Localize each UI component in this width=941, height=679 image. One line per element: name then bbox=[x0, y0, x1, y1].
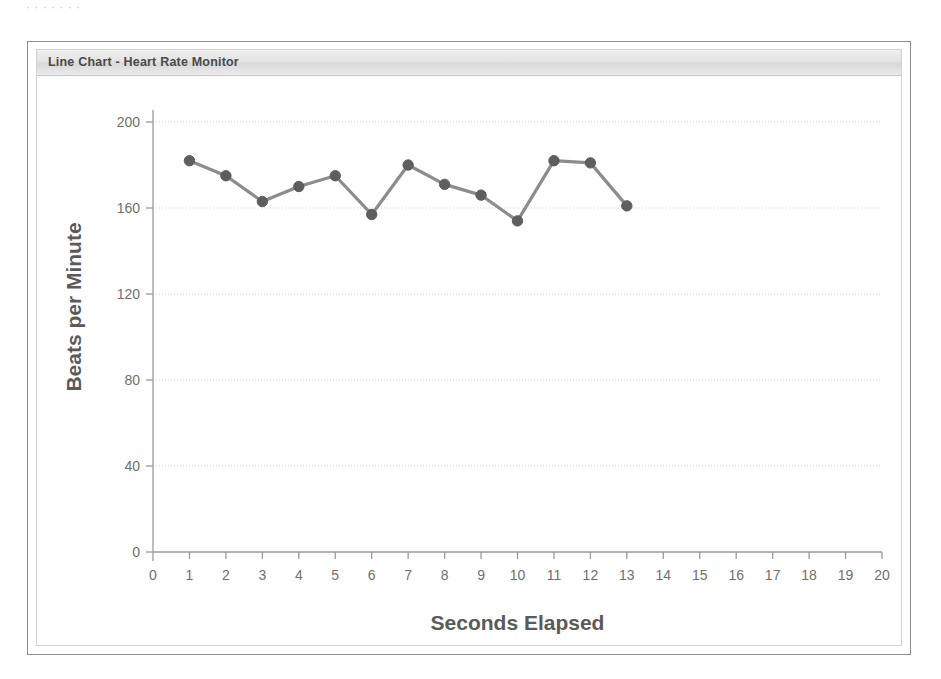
plot-area: 0408012016020001234567891011121314151617… bbox=[37, 76, 901, 645]
data-point[interactable] bbox=[549, 156, 559, 166]
x-tick-label-14: 14 bbox=[656, 567, 672, 583]
chart-panel: Line Chart - Heart Rate Monitor 04080120… bbox=[27, 41, 911, 655]
chart-panel-header: Line Chart - Heart Rate Monitor bbox=[37, 50, 901, 76]
x-tick-label-3: 3 bbox=[258, 567, 266, 583]
x-tick-label-4: 4 bbox=[295, 567, 303, 583]
data-point[interactable] bbox=[585, 158, 595, 168]
x-tick-label-6: 6 bbox=[368, 567, 376, 583]
y-axis-title: Beats per Minute bbox=[62, 222, 85, 391]
x-tick-label-9: 9 bbox=[477, 567, 485, 583]
x-tick-label-12: 12 bbox=[583, 567, 599, 583]
y-tick-label-160: 160 bbox=[117, 200, 141, 216]
chart-panel-title: Line Chart - Heart Rate Monitor bbox=[48, 55, 239, 69]
data-point[interactable] bbox=[512, 216, 522, 226]
x-tick-label-19: 19 bbox=[838, 567, 854, 583]
x-tick-label-0: 0 bbox=[149, 567, 157, 583]
data-point[interactable] bbox=[403, 160, 413, 170]
data-point[interactable] bbox=[184, 156, 194, 166]
cropped-text-sliver: · · · · · · · bbox=[26, 0, 206, 9]
x-tick-label-15: 15 bbox=[692, 567, 708, 583]
data-point[interactable] bbox=[622, 201, 632, 211]
x-tick-label-16: 16 bbox=[728, 567, 744, 583]
x-tick-label-1: 1 bbox=[186, 567, 194, 583]
x-tick-label-8: 8 bbox=[441, 567, 449, 583]
x-tick-label-11: 11 bbox=[547, 567, 562, 583]
x-tick-label-5: 5 bbox=[331, 567, 339, 583]
x-tick-label-17: 17 bbox=[765, 567, 781, 583]
y-tick-label-40: 40 bbox=[124, 458, 140, 474]
data-point[interactable] bbox=[330, 171, 340, 181]
y-tick-label-120: 120 bbox=[117, 286, 141, 302]
x-axis-title: Seconds Elapsed bbox=[431, 611, 605, 634]
data-point[interactable] bbox=[294, 181, 304, 191]
x-tick-label-18: 18 bbox=[801, 567, 817, 583]
data-point[interactable] bbox=[257, 196, 267, 206]
x-tick-label-20: 20 bbox=[874, 567, 890, 583]
x-tick-label-13: 13 bbox=[619, 567, 635, 583]
y-tick-label-200: 200 bbox=[117, 114, 141, 130]
x-tick-label-10: 10 bbox=[510, 567, 526, 583]
data-point[interactable] bbox=[476, 190, 486, 200]
chart-panel-inner: Line Chart - Heart Rate Monitor 04080120… bbox=[36, 49, 902, 646]
data-point[interactable] bbox=[439, 179, 449, 189]
data-point[interactable] bbox=[367, 209, 377, 219]
x-tick-label-7: 7 bbox=[404, 567, 412, 583]
data-point[interactable] bbox=[221, 171, 231, 181]
y-tick-label-80: 80 bbox=[124, 372, 140, 388]
line-chart-svg: 0408012016020001234567891011121314151617… bbox=[37, 76, 903, 636]
y-tick-label-0: 0 bbox=[132, 544, 140, 560]
x-tick-label-2: 2 bbox=[222, 567, 230, 583]
